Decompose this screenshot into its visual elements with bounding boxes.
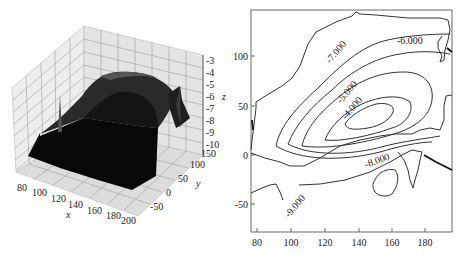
z-tick: -8	[206, 115, 214, 126]
y-tick-labels: 100 50 0 -50	[233, 51, 248, 210]
y-tick: -50	[235, 199, 248, 210]
surface-3d-canvas: -3 -4 -5 -6 -7 -8 -9 -10 z 150 100 50 0 …	[0, 0, 231, 255]
x-tick: 200	[121, 215, 136, 226]
y-tick: 50	[178, 173, 188, 184]
y-tick: 150	[201, 148, 216, 159]
z-tick: -5	[206, 79, 214, 90]
z-tick: -6	[206, 91, 214, 102]
surface-3d-plot: -3 -4 -5 -6 -7 -8 -9 -10 z 150 100 50 0 …	[0, 0, 231, 255]
x-tick: 160	[87, 205, 102, 216]
y-tick: 0	[243, 150, 248, 161]
x-tick: 140	[352, 237, 367, 248]
z-tick-labels: -3 -4 -5 -6 -7 -8 -9 -10	[206, 55, 219, 150]
z-axis-label: z	[221, 91, 226, 102]
x-tick: 80	[252, 237, 262, 248]
contour-label: -6.000	[397, 35, 423, 46]
contour-canvas: 100 50 0 -50 80 100 120 140 160 180	[231, 0, 462, 255]
z-tick: -7	[206, 103, 214, 114]
y-tick: 0	[166, 187, 171, 198]
y-tick: 100	[190, 159, 205, 170]
x-tick: 180	[106, 210, 121, 221]
x-tick-labels: 80 100 120 140 160 180	[252, 237, 433, 248]
x-tick: 100	[284, 237, 299, 248]
z-tick: -4	[206, 67, 214, 78]
discontinuity-line	[252, 120, 253, 130]
x-axis-label: x	[65, 209, 71, 220]
x-tick: 180	[418, 237, 433, 248]
y-tick: -50	[150, 201, 163, 212]
y-tick: 50	[238, 101, 248, 112]
z-tick: -9	[206, 127, 214, 138]
y-axis-label: y	[195, 178, 201, 189]
x-tick: 160	[385, 237, 400, 248]
x-tick: 100	[32, 187, 47, 198]
contour-plot: 100 50 0 -50 80 100 120 140 160 180	[231, 0, 462, 255]
x-tick: 80	[17, 182, 27, 193]
y-tick: 100	[233, 51, 248, 62]
z-tick: -3	[206, 55, 214, 66]
x-tick: 120	[318, 237, 333, 248]
x-tick: 120	[51, 193, 66, 204]
